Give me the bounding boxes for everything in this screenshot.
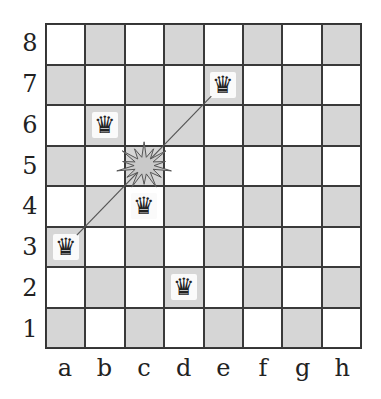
square-g2	[282, 267, 321, 308]
square-f5	[243, 146, 282, 187]
file-label: d	[174, 356, 194, 380]
file-label: f	[253, 356, 273, 380]
file-label: c	[134, 356, 154, 380]
file-label: b	[94, 356, 114, 380]
square-e1	[204, 308, 243, 349]
square-d1	[164, 308, 203, 349]
queen-icon: ♛	[131, 193, 157, 219]
square-g6	[282, 105, 321, 146]
square-h4	[322, 186, 361, 227]
square-b1	[85, 308, 124, 349]
rank-label: 8	[20, 31, 40, 55]
square-f7	[243, 65, 282, 106]
square-d5	[164, 146, 203, 187]
square-c5	[125, 146, 164, 187]
square-d7	[164, 65, 203, 106]
square-a4	[46, 186, 85, 227]
square-a3: ♛	[46, 227, 85, 268]
square-e6	[204, 105, 243, 146]
rank-label: 5	[20, 154, 40, 178]
queen-icon: ♛	[92, 112, 118, 138]
square-b8	[85, 24, 124, 65]
rank-label: 7	[20, 72, 40, 96]
square-d6	[164, 105, 203, 146]
square-c6	[125, 105, 164, 146]
square-b2	[85, 267, 124, 308]
queen-icon: ♛	[53, 234, 79, 260]
square-g4	[282, 186, 321, 227]
square-d8	[164, 24, 203, 65]
square-a5	[46, 146, 85, 187]
square-e5	[204, 146, 243, 187]
queen-icon: ♛	[210, 72, 236, 98]
rank-label: 1	[20, 317, 40, 341]
square-e2	[204, 267, 243, 308]
square-g5	[282, 146, 321, 187]
square-f2	[243, 267, 282, 308]
square-d4	[164, 186, 203, 227]
square-a1	[46, 308, 85, 349]
square-a8	[46, 24, 85, 65]
square-b4	[85, 186, 124, 227]
chess-board: ♛♛♛♛♛	[45, 23, 362, 349]
square-h3	[322, 227, 361, 268]
square-h6	[322, 105, 361, 146]
square-b3	[85, 227, 124, 268]
square-b7	[85, 65, 124, 106]
square-h5	[322, 146, 361, 187]
rank-label: 6	[20, 113, 40, 137]
square-c4: ♛	[125, 186, 164, 227]
rank-label: 4	[20, 194, 40, 218]
square-f6	[243, 105, 282, 146]
file-label: h	[332, 356, 352, 380]
square-e8	[204, 24, 243, 65]
square-e3	[204, 227, 243, 268]
square-f1	[243, 308, 282, 349]
rank-label: 2	[20, 276, 40, 300]
square-h7	[322, 65, 361, 106]
square-h1	[322, 308, 361, 349]
square-b6: ♛	[85, 105, 124, 146]
square-c1	[125, 308, 164, 349]
square-c2	[125, 267, 164, 308]
square-g3	[282, 227, 321, 268]
file-label: g	[293, 356, 313, 380]
square-f4	[243, 186, 282, 227]
square-g1	[282, 308, 321, 349]
rank-label: 3	[20, 235, 40, 259]
file-label: e	[213, 356, 233, 380]
square-a6	[46, 105, 85, 146]
square-d3	[164, 227, 203, 268]
square-a2	[46, 267, 85, 308]
square-a7	[46, 65, 85, 106]
file-label: a	[55, 356, 75, 380]
square-f8	[243, 24, 282, 65]
square-e7: ♛	[204, 65, 243, 106]
square-f3	[243, 227, 282, 268]
queen-icon: ♛	[171, 274, 197, 300]
square-d2: ♛	[164, 267, 203, 308]
square-b5	[85, 146, 124, 187]
square-e4	[204, 186, 243, 227]
square-g8	[282, 24, 321, 65]
square-c8	[125, 24, 164, 65]
square-c7	[125, 65, 164, 106]
square-g7	[282, 65, 321, 106]
square-h2	[322, 267, 361, 308]
square-c3	[125, 227, 164, 268]
square-h8	[322, 24, 361, 65]
